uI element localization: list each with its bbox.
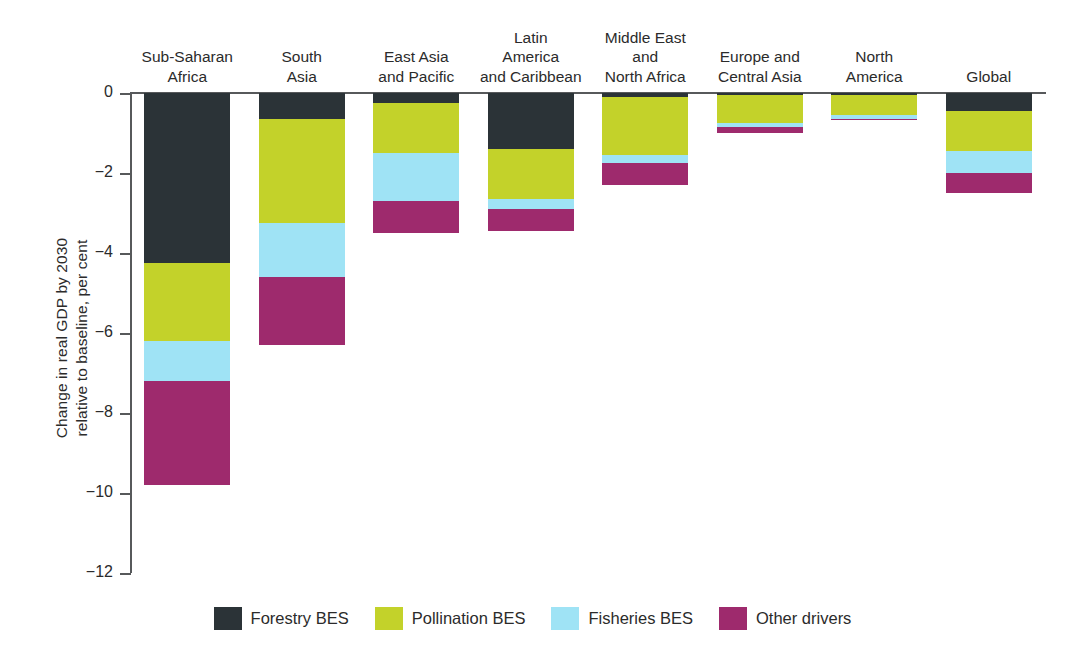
y-axis-tick-mark [120, 493, 131, 495]
bar-segment-pollination-bes[interactable] [373, 103, 459, 153]
x-axis-category-6: Europe and Central Asia [697, 0, 824, 86]
y-axis-tick-mark [120, 333, 131, 335]
y-axis-tick-label: −8 [51, 404, 113, 420]
y-axis-tick-mark [120, 253, 131, 255]
bar-6[interactable] [717, 93, 803, 133]
x-axis-category-label: Middle East and North Africa [582, 28, 709, 87]
legend-swatch-icon [214, 607, 242, 630]
bar-segment-forestry-bes[interactable] [488, 93, 574, 149]
bar-7[interactable] [831, 93, 917, 120]
y-axis-tick-mark [120, 573, 131, 575]
bar-segment-other-drivers[interactable] [831, 119, 917, 120]
bar-segment-pollination-bes[interactable] [946, 111, 1032, 151]
legend-swatch-icon [719, 607, 747, 630]
x-axis-category-label: Global [926, 67, 1053, 87]
bar-segment-pollination-bes[interactable] [602, 97, 688, 155]
x-axis-category-label: South Asia [239, 47, 366, 86]
bar-segment-other-drivers[interactable] [144, 381, 230, 485]
bar-3[interactable] [373, 93, 459, 233]
chart-legend: Forestry BESPollination BESFisheries BES… [0, 607, 1065, 630]
x-axis-category-label: Europe and Central Asia [697, 47, 824, 86]
bar-segment-forestry-bes[interactable] [259, 93, 345, 119]
bar-segment-other-drivers[interactable] [373, 201, 459, 233]
bar-segment-pollination-bes[interactable] [831, 95, 917, 115]
x-axis-category-7: North America [811, 0, 938, 86]
y-axis-tick-mark [120, 93, 131, 95]
bar-5[interactable] [602, 93, 688, 185]
bar-segment-forestry-bes[interactable] [946, 93, 1032, 111]
x-axis-category-label: Latin America and Caribbean [468, 28, 595, 87]
bar-1[interactable] [144, 93, 230, 485]
y-axis-tick-label: −10 [51, 484, 113, 500]
x-axis-category-label: North America [811, 47, 938, 86]
bar-segment-other-drivers[interactable] [602, 163, 688, 185]
x-axis-category-label: East Asia and Pacific [353, 47, 480, 86]
y-axis-tick-label: −12 [51, 564, 113, 580]
legend-label: Pollination BES [412, 610, 526, 627]
legend-label: Forestry BES [251, 610, 349, 627]
y-axis-tick-label: −6 [51, 324, 113, 340]
bar-segment-fisheries-bes[interactable] [946, 151, 1032, 173]
legend-item-3[interactable]: Fisheries BES [551, 607, 693, 630]
bar-segment-other-drivers[interactable] [488, 209, 574, 231]
bar-segment-fisheries-bes[interactable] [373, 153, 459, 201]
x-axis-category-3: East Asia and Pacific [353, 0, 480, 86]
bar-segment-pollination-bes[interactable] [144, 263, 230, 341]
x-axis-category-1: Sub-Saharan Africa [124, 0, 251, 86]
x-axis-category-4: Latin America and Caribbean [468, 0, 595, 86]
bar-segment-other-drivers[interactable] [946, 173, 1032, 193]
chart-figure: Change in real GDP by 2030 relative to b… [0, 0, 1065, 651]
bar-2[interactable] [259, 93, 345, 345]
bar-segment-forestry-bes[interactable] [373, 93, 459, 103]
bar-segment-pollination-bes[interactable] [488, 149, 574, 199]
legend-item-2[interactable]: Pollination BES [375, 607, 526, 630]
y-axis-tick-mark [120, 413, 131, 415]
legend-swatch-icon [375, 607, 403, 630]
y-axis-tick-label: −4 [51, 244, 113, 260]
x-axis-category-2: South Asia [239, 0, 366, 86]
bar-segment-forestry-bes[interactable] [144, 93, 230, 263]
bar-segment-fisheries-bes[interactable] [144, 341, 230, 381]
legend-item-1[interactable]: Forestry BES [214, 607, 349, 630]
bar-4[interactable] [488, 93, 574, 231]
x-axis-category-8: Global [926, 0, 1053, 86]
y-axis-tick-label: 0 [51, 84, 113, 100]
bar-segment-other-drivers[interactable] [259, 277, 345, 345]
bar-segment-fisheries-bes[interactable] [259, 223, 345, 277]
legend-label: Other drivers [756, 610, 851, 627]
bar-8[interactable] [946, 93, 1032, 193]
y-axis-tick-mark [120, 173, 131, 175]
bar-segment-pollination-bes[interactable] [259, 119, 345, 223]
legend-label: Fisheries BES [588, 610, 693, 627]
bar-segment-fisheries-bes[interactable] [602, 155, 688, 163]
bar-segment-fisheries-bes[interactable] [488, 199, 574, 209]
legend-swatch-icon [551, 607, 579, 630]
x-axis-category-label: Sub-Saharan Africa [124, 47, 251, 86]
bar-segment-pollination-bes[interactable] [717, 95, 803, 123]
x-axis-category-5: Middle East and North Africa [582, 0, 709, 86]
y-axis-tick-label: −2 [51, 164, 113, 180]
legend-item-4[interactable]: Other drivers [719, 607, 851, 630]
bar-segment-other-drivers[interactable] [717, 127, 803, 133]
